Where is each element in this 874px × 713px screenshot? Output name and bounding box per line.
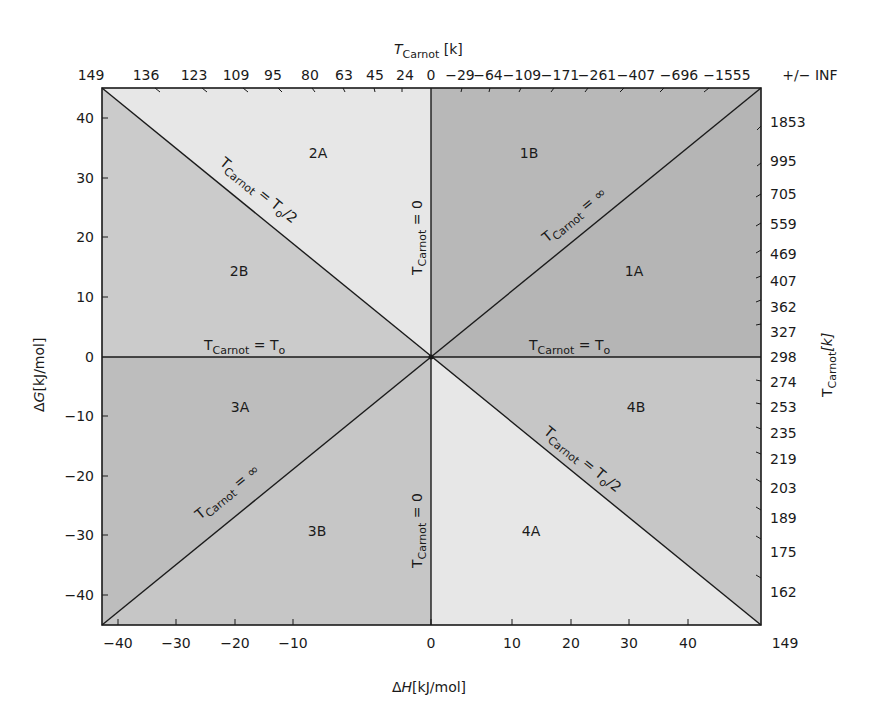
x-tick-label: 40	[679, 635, 697, 651]
region-label-1A: 1A	[625, 263, 644, 279]
top-tick-label: −696	[660, 67, 699, 83]
region-label-4A: 4A	[522, 523, 541, 539]
region-label-2B: 2B	[230, 263, 249, 279]
right-tick-label: 162	[770, 584, 797, 600]
top-tick-label: −109	[503, 67, 541, 83]
top-tick-label: −1555	[703, 67, 750, 83]
region-label-3B: 3B	[308, 523, 327, 539]
right-tick-label: 995	[770, 153, 797, 169]
right-tick-label: 189	[770, 510, 797, 526]
y-axis-title: ΔG[kJ/mol]	[31, 338, 47, 412]
top-tick-label: −64	[473, 67, 503, 83]
right-tick-label: 1853	[770, 114, 806, 130]
y-tick-label: −40	[64, 587, 94, 603]
top-tick-label: 24	[396, 67, 414, 83]
origin-point	[429, 355, 434, 360]
right-tick-label: 253	[770, 399, 797, 415]
top-tick-label: 45	[366, 67, 384, 83]
x-tick-label: 10	[503, 635, 521, 651]
x-tick-label: 0	[427, 635, 436, 651]
top-tick-label: 0	[427, 67, 436, 83]
y-tick-label: 10	[76, 289, 94, 305]
region-label-3A: 3A	[231, 399, 250, 415]
top-tick-label: +/− INF	[782, 67, 837, 83]
top-tick-label: 63	[335, 67, 353, 83]
top-tick-label: 149	[78, 67, 105, 83]
region-label-4B: 4B	[627, 399, 646, 415]
y-tick-label: −10	[64, 408, 94, 424]
top-tick-label: −171	[541, 67, 579, 83]
top-tick-label: 95	[264, 67, 282, 83]
y-tick-label: 40	[76, 110, 94, 126]
y-tick-label: 0	[85, 349, 94, 365]
y-axis-tick-labels: 40 30 20 10 0 −10 −20 −30 −40	[64, 110, 94, 603]
right-tick-label-bottom: 149	[772, 635, 799, 651]
right-tick-label: 235	[770, 425, 797, 441]
x-tick-label: −40	[103, 635, 133, 651]
top-tick-label: 109	[223, 67, 250, 83]
right-tick-label: 469	[770, 246, 797, 262]
region-label-2A: 2A	[309, 145, 328, 161]
x-tick-label: 20	[562, 635, 580, 651]
top-tick-label: −29	[445, 67, 475, 83]
right-tick-label: 407	[770, 273, 797, 289]
chart: −40 −30 −20 −10 0 10 20 30 40 149 40 30 …	[0, 0, 874, 713]
x-tick-label: −20	[220, 635, 250, 651]
right-axis-tick-labels: 1853 995 705 559 469 407 362 327 298 274…	[770, 114, 806, 600]
y-tick-label: 30	[76, 170, 94, 186]
right-tick-label: 298	[770, 349, 797, 365]
right-tick-label: 559	[770, 216, 797, 232]
top-axis-tick-labels: 149 136 123 109 95 80 63 45 24 0 −29 −64…	[78, 67, 838, 83]
y-tick-label: −20	[64, 468, 94, 484]
x-tick-label: −30	[161, 635, 191, 651]
top-axis-title: TCarnot [k]	[394, 41, 463, 61]
x-axis-title: ΔH[kJ/mol]	[392, 679, 466, 695]
right-tick-label: 175	[770, 544, 797, 560]
top-tick-label: −261	[578, 67, 616, 83]
top-tick-label: −407	[617, 67, 655, 83]
x-tick-label: 30	[620, 635, 638, 651]
top-tick-label: 80	[301, 67, 319, 83]
top-tick-label: 123	[181, 67, 208, 83]
right-tick-label: 362	[770, 299, 797, 315]
right-axis-title: TCarnot[k]	[819, 333, 839, 398]
right-tick-label: 327	[770, 324, 797, 340]
right-tick-label: 219	[770, 451, 797, 467]
y-tick-label: −30	[64, 527, 94, 543]
y-tick-label: 20	[76, 229, 94, 245]
x-axis-tick-labels: −40 −30 −20 −10 0 10 20 30 40 149	[103, 635, 798, 651]
top-tick-label: 136	[133, 67, 160, 83]
right-tick-label: 203	[770, 480, 797, 496]
right-tick-label: 705	[770, 186, 797, 202]
x-tick-label: −10	[278, 635, 308, 651]
region-label-1B: 1B	[520, 145, 539, 161]
right-tick-label: 274	[770, 374, 797, 390]
